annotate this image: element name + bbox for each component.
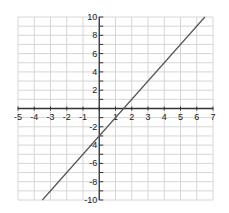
coordinate-plane-chart: -5-4-3-2-11234567 108642-2-4-6-8-10 bbox=[0, 0, 229, 213]
x-tick-label: -5 bbox=[14, 112, 22, 122]
x-tick-label: -3 bbox=[46, 112, 54, 122]
y-tick-label: -10 bbox=[84, 195, 97, 205]
y-tick-label: -6 bbox=[89, 158, 97, 168]
x-tick-label: -4 bbox=[30, 112, 38, 122]
x-tick-label: 4 bbox=[162, 112, 167, 122]
x-tick-labels: -5-4-3-2-11234567 bbox=[14, 112, 216, 122]
x-tick-label: 3 bbox=[145, 112, 150, 122]
y-tick-label: 2 bbox=[92, 85, 97, 95]
y-tick-label: 10 bbox=[87, 12, 97, 22]
x-tick-label: 6 bbox=[194, 112, 199, 122]
x-tick-label: 5 bbox=[178, 112, 183, 122]
y-tick-label: -8 bbox=[89, 177, 97, 187]
x-tick-label: -1 bbox=[79, 112, 87, 122]
x-tick-label: 7 bbox=[210, 112, 215, 122]
y-tick-label: 6 bbox=[92, 49, 97, 59]
x-tick-label: -2 bbox=[63, 112, 71, 122]
x-tick-label: 2 bbox=[129, 112, 134, 122]
y-tick-label: -2 bbox=[89, 122, 97, 132]
y-tick-label: 8 bbox=[92, 30, 97, 40]
y-tick-label: 4 bbox=[92, 67, 97, 77]
